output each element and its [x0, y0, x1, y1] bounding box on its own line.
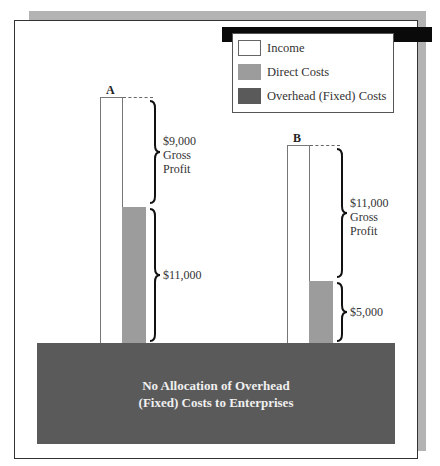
gross-profit-word: Profit: [350, 224, 389, 238]
enterprise-b-income-bar: [287, 145, 310, 344]
legend-label: Overhead (Fixed) Costs: [267, 89, 386, 104]
enterprise-a-income-bar: [100, 97, 123, 344]
frame-shadow-right: [417, 11, 426, 451]
enterprise-a-gross-profit-annotation: $9,000 Gross Profit: [163, 134, 196, 176]
legend: Income Direct Costs Overhead (Fixed) Cos…: [232, 33, 394, 113]
frame-shadow-top: [29, 11, 426, 20]
income-swatch-icon: [238, 40, 261, 56]
direct-costs-swatch-icon: [238, 64, 261, 80]
enterprise-a-income-dashline: [123, 97, 153, 98]
gross-profit-word: Gross: [350, 210, 389, 224]
enterprise-a-direct-costs-value: $11,000: [163, 268, 202, 282]
enterprise-b-gross-profit-brace-icon: [335, 148, 349, 278]
enterprise-b-direct-costs-brace-icon: [335, 282, 349, 342]
overhead-swatch-icon: [238, 88, 261, 104]
legend-label: Income: [267, 41, 304, 56]
enterprise-a-label: A: [106, 83, 115, 98]
legend-item-overhead: Overhead (Fixed) Costs: [238, 86, 386, 106]
gross-profit-value: $11,000: [350, 196, 389, 210]
legend-item-income: Income: [238, 38, 304, 58]
enterprise-b-direct-costs-value: $5,000: [350, 305, 383, 319]
enterprise-b-income-dashline: [310, 145, 340, 146]
gross-profit-word: Gross: [163, 148, 196, 162]
gross-profit-word: Profit: [163, 162, 196, 176]
enterprise-a-direct-costs-brace-icon: [148, 208, 162, 342]
enterprise-b-label: B: [293, 131, 301, 146]
overhead-caption-line2: (Fixed) Costs to Enterprises: [139, 394, 294, 411]
legend-label: Direct Costs: [267, 65, 329, 80]
legend-item-direct-costs: Direct Costs: [238, 62, 329, 82]
overhead-caption-line1: No Allocation of Overhead: [142, 377, 290, 394]
enterprise-b-gross-profit-annotation: $11,000 Gross Profit: [350, 196, 389, 238]
enterprise-b-direct-costs-bar: [309, 281, 333, 344]
enterprise-a-direct-costs-bar: [122, 207, 146, 344]
gross-profit-value: $9,000: [163, 134, 196, 148]
enterprise-a-gross-profit-brace-icon: [148, 100, 162, 204]
overhead-costs-block: No Allocation of Overhead (Fixed) Costs …: [37, 343, 395, 444]
